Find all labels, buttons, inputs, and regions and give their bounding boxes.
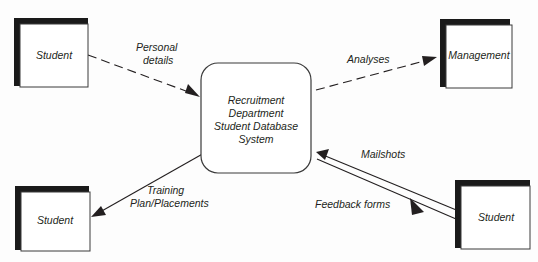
- process-central-line4: System: [238, 133, 273, 145]
- entity-student-bottom-left-label: Student: [37, 214, 74, 226]
- flow-training-plan-label-line2: Plan/Placements: [130, 197, 210, 209]
- flow-training-plan-label-line1: Training: [147, 184, 184, 196]
- process-central-line1: Recruitment: [228, 94, 286, 106]
- entity-student-bottom-right-shadow-top: [455, 180, 530, 186]
- flow-feedback-forms-line: [317, 159, 463, 222]
- flow-analyses: Analyses: [316, 53, 437, 90]
- flow-personal-details: Personal details: [88, 41, 200, 97]
- entity-student-bottom-left[interactable]: Student: [15, 186, 90, 251]
- entity-management-shadow-left: [440, 19, 446, 87]
- entity-student-top-left-shadow-top: [14, 18, 88, 24]
- entity-student-bottom-right-label: Student: [478, 211, 515, 223]
- entity-student-bottom-left-shadow-top: [15, 186, 89, 192]
- flow-personal-details-label-line1: Personal: [136, 41, 178, 53]
- process-central-line3: Student Database: [214, 120, 298, 132]
- process-central[interactable]: Recruitment Department Student Database …: [201, 63, 311, 173]
- flow-feedback-forms: Feedback forms: [315, 159, 463, 222]
- flow-mailshots-arrowhead: [316, 149, 329, 160]
- dfd-canvas: Personal details Analyses Training Plan/…: [0, 0, 538, 262]
- flow-analyses-arrowhead: [422, 56, 437, 66]
- flow-training-plan: Training Plan/Placements: [91, 152, 210, 217]
- entity-management-top-right[interactable]: Management: [440, 19, 512, 88]
- flow-analyses-label: Analyses: [346, 53, 390, 65]
- entity-management-shadow-top: [440, 19, 510, 25]
- flow-feedback-forms-label: Feedback forms: [315, 198, 391, 210]
- flow-personal-details-line: [88, 55, 194, 94]
- flow-personal-details-arrowhead: [185, 84, 200, 97]
- entity-student-top-left-shadow-left: [14, 18, 20, 86]
- entity-student-bottom-right-shadow-left: [455, 180, 461, 248]
- flow-mailshots-label: Mailshots: [361, 148, 406, 160]
- entity-student-bottom-right[interactable]: Student: [455, 180, 530, 249]
- flow-feedback-forms-arrowhead: [410, 198, 424, 215]
- entity-management-label: Management: [448, 49, 510, 61]
- entity-student-bottom-left-shadow-left: [15, 186, 21, 250]
- flow-training-plan-arrowhead: [91, 206, 106, 217]
- entity-student-top-left[interactable]: Student: [14, 18, 88, 87]
- entity-student-top-left-label: Student: [36, 49, 73, 61]
- flow-personal-details-label-line2: details: [143, 54, 174, 66]
- process-central-line2: Department: [229, 107, 285, 119]
